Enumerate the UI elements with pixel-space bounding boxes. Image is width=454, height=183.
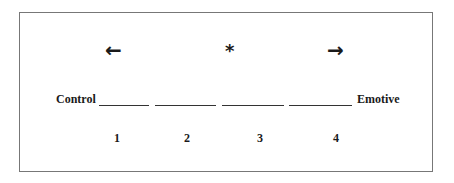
position-number-2: 2 <box>177 131 197 145</box>
position-number-4: 4 <box>326 131 346 145</box>
blank-line-1[interactable] <box>99 105 149 106</box>
blank-line-2[interactable] <box>155 105 216 106</box>
asterisk-marker-icon: * <box>225 42 234 60</box>
emotive-anchor-label: Emotive <box>357 92 400 106</box>
position-number-3: 3 <box>250 131 270 145</box>
right-arrow-icon: → <box>327 40 344 60</box>
control-anchor-label: Control <box>56 92 96 106</box>
blank-line-3[interactable] <box>222 105 284 106</box>
left-arrow-icon: ← <box>105 40 122 60</box>
position-number-1: 1 <box>107 131 127 145</box>
blank-line-4[interactable] <box>289 105 352 106</box>
